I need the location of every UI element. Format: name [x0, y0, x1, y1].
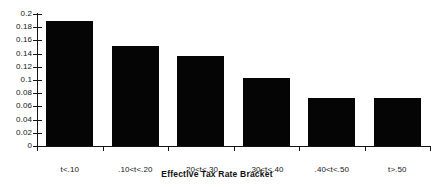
- x-axis-tick-mark: [365, 146, 366, 151]
- x-axis-tick-mark: [37, 146, 38, 151]
- y-axis-tick-label: 0.06: [16, 102, 32, 110]
- y-axis-tick-label: 0.1: [21, 76, 32, 84]
- y-axis-tick-label: 0: [27, 142, 32, 150]
- y-axis-tick-label: 0.14: [16, 50, 32, 58]
- y-axis-tick-mark: [33, 80, 42, 81]
- x-axis-tick-mark: [103, 146, 104, 151]
- bar: [46, 21, 93, 146]
- y-axis-tick-mark: [33, 40, 42, 41]
- y-axis-tick-mark: [33, 27, 42, 28]
- y-axis-tick-label: 0.02: [16, 129, 32, 137]
- y-axis-tick-label: 0.12: [16, 63, 32, 71]
- y-axis-tick-mark: [33, 120, 42, 121]
- x-axis-tick-mark: [168, 146, 169, 151]
- y-axis-tick-label: 0.08: [16, 89, 32, 97]
- y-axis-tick-label: 0.2: [21, 10, 32, 18]
- bar: [243, 78, 290, 146]
- y-axis-tick-mark: [33, 54, 42, 55]
- x-axis-tick-mark: [430, 146, 431, 151]
- y-axis-tick-mark: [33, 106, 42, 107]
- y-axis-tick-mark: [33, 133, 42, 134]
- y-axis-tick-mark: [33, 93, 42, 94]
- x-axis-tick-mark: [234, 146, 235, 151]
- bar: [374, 98, 421, 146]
- bar: [112, 46, 159, 146]
- bar-chart-figure: 00.020.040.060.080.10.120.140.160.180.2 …: [0, 0, 434, 187]
- plot-area: 00.020.040.060.080.10.120.140.160.180.2 …: [37, 14, 430, 146]
- bar: [177, 56, 224, 146]
- y-axis-tick-label: 0.04: [16, 116, 32, 124]
- y-axis-tick-mark: [33, 67, 42, 68]
- x-axis-title: Effective Tax Rate Bracket: [0, 170, 434, 179]
- y-axis-tick-mark: [33, 14, 42, 15]
- bar: [308, 98, 355, 146]
- y-axis-tick-label: 0.16: [16, 36, 32, 44]
- x-axis-tick-mark: [299, 146, 300, 151]
- y-axis-tick-label: 0.18: [16, 23, 32, 31]
